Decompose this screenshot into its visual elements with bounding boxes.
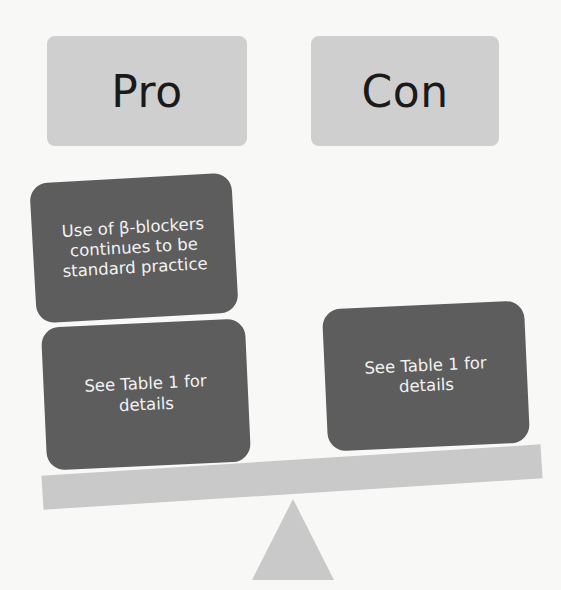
fulcrum-triangle-icon — [252, 499, 334, 580]
pro-header-label: Pro — [111, 66, 182, 117]
con-header: Con — [311, 36, 499, 146]
con-header-label: Con — [361, 66, 448, 117]
pro-header: Pro — [47, 36, 247, 146]
pro-card-standard-practice: Use of β-blockers continues to be standa… — [29, 172, 239, 323]
pro-card-text: Use of β-blockers continues to be standa… — [47, 213, 220, 283]
con-card-see-table: See Table 1 for details — [322, 300, 530, 451]
pro-card-see-table: See Table 1 for details — [41, 318, 251, 470]
con-card-text: See Table 1 for details — [355, 353, 497, 400]
pro-card-text: See Table 1 for details — [75, 371, 217, 418]
